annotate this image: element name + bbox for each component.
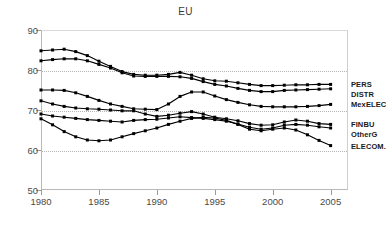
x-tick-1985 <box>99 190 100 195</box>
data-point <box>283 127 286 130</box>
data-point <box>329 127 332 130</box>
y-tick-label-90: 90 <box>27 25 38 36</box>
data-point <box>294 129 297 132</box>
data-point <box>248 89 251 92</box>
data-point <box>225 85 228 88</box>
data-point <box>190 74 193 77</box>
data-point <box>155 108 158 111</box>
data-point <box>318 122 321 125</box>
data-point <box>144 129 147 132</box>
data-point <box>97 99 100 102</box>
data-point <box>306 124 309 127</box>
data-point <box>260 129 263 132</box>
series-finbu <box>40 99 333 126</box>
series-label-otherg: OtherG <box>351 129 377 138</box>
series-label-distr: DISTR <box>351 89 374 98</box>
data-point <box>51 103 54 106</box>
data-point <box>318 139 321 142</box>
data-point <box>179 71 182 74</box>
data-point <box>40 113 43 116</box>
data-point <box>109 67 112 70</box>
data-point <box>63 89 66 92</box>
data-point <box>271 105 274 108</box>
data-point <box>236 123 239 126</box>
data-point <box>109 109 112 112</box>
x-tick-label-1990: 1990 <box>146 196 167 207</box>
series-elecom <box>40 116 333 147</box>
data-point <box>63 130 66 133</box>
data-point <box>86 107 89 110</box>
x-tick-2000 <box>273 190 274 195</box>
data-point <box>97 119 100 122</box>
data-point <box>271 90 274 93</box>
data-point <box>306 105 309 108</box>
data-point <box>179 120 182 123</box>
data-point <box>283 89 286 92</box>
data-point <box>236 81 239 84</box>
data-point <box>155 127 158 130</box>
data-point <box>306 120 309 123</box>
data-point <box>97 63 100 66</box>
data-point <box>51 49 54 52</box>
data-point <box>121 135 124 138</box>
data-point <box>271 128 274 131</box>
data-point <box>236 87 239 90</box>
data-point <box>144 113 147 116</box>
data-point <box>190 77 193 80</box>
data-point <box>318 104 321 107</box>
data-point <box>248 128 251 131</box>
data-point <box>121 109 124 112</box>
x-tick-1990 <box>157 190 158 195</box>
data-point <box>74 135 77 138</box>
data-point <box>202 113 205 116</box>
series-pers <box>40 48 333 87</box>
series-mexelec <box>40 89 333 112</box>
data-point <box>306 133 309 136</box>
data-point <box>190 110 193 113</box>
data-point <box>144 75 147 78</box>
data-point <box>260 90 263 93</box>
data-point <box>167 123 170 126</box>
data-point <box>51 58 54 61</box>
x-tick-1980 <box>41 190 42 195</box>
data-point <box>86 95 89 98</box>
data-point <box>132 119 135 122</box>
data-point <box>190 91 193 94</box>
data-point <box>294 83 297 86</box>
data-point <box>318 125 321 128</box>
data-point <box>283 124 286 127</box>
data-point <box>97 108 100 111</box>
data-point <box>283 121 286 124</box>
data-point <box>167 75 170 78</box>
data-point <box>144 108 147 111</box>
data-point <box>294 119 297 122</box>
data-point <box>121 71 124 74</box>
y-tick-label-70: 70 <box>27 105 38 116</box>
data-point <box>51 115 54 118</box>
data-point <box>40 89 43 92</box>
data-point <box>225 119 228 122</box>
series-label-elecom: ELECOM. <box>351 141 386 150</box>
data-point <box>329 123 332 126</box>
data-point <box>283 105 286 108</box>
data-point <box>225 98 228 101</box>
data-point <box>213 117 216 120</box>
x-tick-label-1995: 1995 <box>204 196 225 207</box>
data-point <box>97 60 100 63</box>
data-point <box>74 107 77 110</box>
data-point <box>213 79 216 82</box>
series-label-finbu: FINBU <box>351 120 374 129</box>
data-point <box>294 105 297 108</box>
data-point <box>40 59 43 62</box>
data-point <box>63 105 66 108</box>
data-point <box>329 103 332 106</box>
chart-data-layer <box>41 30 348 190</box>
y-tick-label-60: 60 <box>27 145 38 156</box>
data-point <box>213 83 216 86</box>
data-point <box>260 124 263 127</box>
data-point <box>121 105 124 108</box>
series-label-pers: PERS <box>351 80 372 89</box>
data-point <box>179 95 182 98</box>
data-point <box>155 75 158 78</box>
y-tick-label-80: 80 <box>27 65 38 76</box>
